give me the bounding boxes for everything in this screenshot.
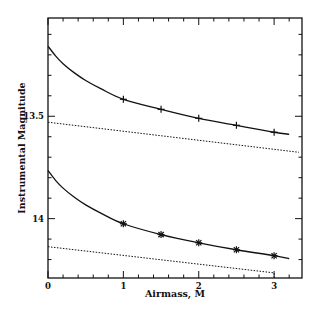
- asterisk-marker: [271, 252, 278, 259]
- plus-marker: [233, 122, 240, 129]
- x-tick-label: 1: [120, 281, 126, 291]
- upper-linear-extinction: [48, 122, 299, 152]
- x-tick-label: 0: [45, 281, 51, 291]
- asterisk-marker: [120, 220, 127, 227]
- y-tick-label: 14: [32, 214, 44, 224]
- y-axis-label: Instrumental Magnitude: [16, 82, 27, 213]
- plus-marker: [158, 106, 165, 113]
- plus-marker: [120, 96, 127, 103]
- plot-series: [48, 46, 299, 278]
- lower-linear-extinction: [48, 247, 274, 278]
- asterisk-marker: [195, 239, 202, 246]
- x-axis-label: Airmass, M: [144, 288, 206, 300]
- x-tick-label: 3: [271, 281, 277, 291]
- asterisk-marker: [158, 231, 165, 238]
- upper-fit-curve: [48, 46, 289, 134]
- tick-labels: 012313.514: [23, 111, 277, 291]
- asterisk-marker: [233, 246, 240, 253]
- lower-fit-curve: [48, 171, 289, 259]
- airmass-magnitude-chart: 012313.514 Airmass, M Instrumental Magni…: [0, 0, 320, 310]
- plus-marker: [195, 115, 202, 122]
- plus-marker: [271, 129, 278, 136]
